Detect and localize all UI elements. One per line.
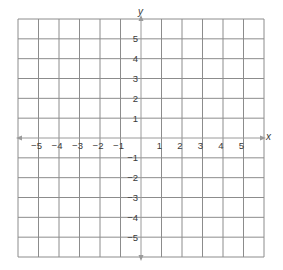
x-tick-labels: −5−4−3−2−112345 [31,140,244,151]
y-axis-arrow-down-icon [139,255,144,261]
y-tick-label: 1 [133,113,138,124]
x-tick-label: 2 [177,140,182,151]
y-tick-label: 2 [133,93,138,104]
x-tick-label: −4 [52,140,63,151]
y-tick-label: −1 [127,152,138,163]
x-tick-label: 1 [157,140,162,151]
x-tick-label: 4 [218,140,223,151]
coordinate-plane: −5−4−3−2−112345 54321−1−2−3−4−5 x y [0,0,283,270]
y-tick-label: −5 [127,232,138,243]
y-tick-label: −2 [127,172,138,183]
y-tick-label: −4 [127,212,138,223]
x-tick-label: 5 [239,140,244,151]
y-tick-label: 5 [133,33,138,44]
axes [16,15,266,261]
x-tick-label: −1 [113,140,124,151]
x-tick-label: 3 [198,140,203,151]
y-axis-label: y [137,6,144,17]
y-tick-label: −3 [127,192,138,203]
x-tick-label: −5 [31,140,42,151]
x-axis-label: x [265,131,272,142]
x-tick-label: −2 [93,140,104,151]
x-axis-arrow-left-icon [16,136,22,141]
x-tick-label: −3 [72,140,83,151]
y-tick-label: 4 [133,53,138,64]
y-tick-label: 3 [133,73,138,84]
